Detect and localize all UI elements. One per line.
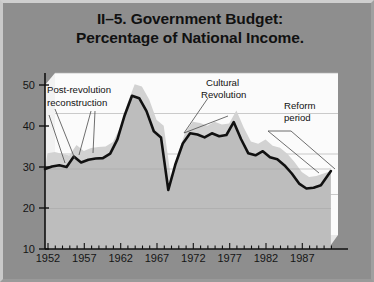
annotation-cultural-line-2: Revolution <box>201 89 246 100</box>
annotation-reform-line-2: period <box>284 112 311 123</box>
annotation-reform-line-1: Reform <box>284 100 315 111</box>
y-tick-label-30: 30 <box>23 161 35 173</box>
y-tick-label-40: 40 <box>23 120 35 132</box>
x-tick-label-1982: 1982 <box>254 252 278 264</box>
x-tick-label-1977: 1977 <box>217 252 241 264</box>
chart-plot: 50 40 30 20 10 <box>3 3 374 282</box>
x-tick-label-1967: 1967 <box>145 252 169 264</box>
x-tick-label-1972: 1972 <box>181 252 205 264</box>
annotation-post-revolution-line-2: reconstruction <box>47 97 107 108</box>
x-tick-label-1962: 1962 <box>108 252 132 264</box>
y-tick-label-20: 20 <box>23 202 35 214</box>
x-tick-label-1952: 1952 <box>36 252 60 264</box>
y-tick-label-10: 10 <box>23 243 35 255</box>
annotation-cultural-line-1: Cultural <box>206 77 239 88</box>
chart-figure: II–5. Government Budget: Percentage of N… <box>0 0 374 282</box>
x-tick-label-1957: 1957 <box>72 252 96 264</box>
y-tick-label-50: 50 <box>23 79 35 91</box>
annotation-post-revolution-line-1: Post-revolution <box>47 84 111 95</box>
x-tick-label-1987: 1987 <box>290 252 314 264</box>
